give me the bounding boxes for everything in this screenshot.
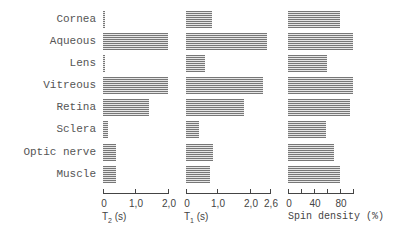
tick-label: 1,0 — [129, 198, 143, 209]
bar-t1 — [186, 99, 244, 116]
bar-sd — [288, 166, 340, 183]
bar-t1 — [186, 11, 212, 28]
axis-tick — [288, 189, 289, 194]
bar-t1 — [186, 77, 263, 94]
bar-t2 — [103, 121, 108, 138]
category-label: Cornea — [0, 13, 96, 25]
bar-t1 — [186, 121, 199, 138]
axis-tick — [353, 189, 354, 194]
axis-tick — [186, 189, 187, 194]
axis-tick — [168, 189, 169, 194]
x-axis-sd — [288, 193, 354, 194]
axis-tick — [103, 189, 104, 194]
bar-sd — [288, 55, 327, 72]
tick-label: 1,0 — [211, 198, 225, 209]
category-label: Aqueous — [0, 35, 96, 47]
tick-label: 80 — [335, 198, 346, 209]
axis-tick — [327, 189, 328, 194]
tick-label: 2,0 — [162, 198, 176, 209]
category-label: Optic nerve — [0, 146, 96, 158]
bar-sd — [288, 121, 326, 138]
bar-t1 — [186, 144, 213, 161]
bar-t2 — [103, 33, 168, 50]
axis-tick — [314, 189, 315, 194]
tick-label: 0 — [286, 198, 292, 209]
axis-tick — [301, 189, 302, 194]
bar-sd — [288, 77, 353, 94]
tick-label: 2,6 — [264, 198, 278, 209]
bar-t2 — [103, 99, 149, 116]
tick-label: 40 — [309, 198, 320, 209]
bar-sd — [288, 33, 353, 50]
bar-t1 — [186, 166, 210, 183]
tick-label: 2,0 — [244, 198, 258, 209]
tick-label: 0 — [184, 198, 190, 209]
axis-tick — [340, 189, 341, 194]
x-axis-t1 — [186, 193, 271, 194]
category-label: Muscle — [0, 168, 96, 180]
category-label: Vitreous — [0, 79, 96, 91]
bar-t1 — [186, 33, 267, 50]
axis-title-spin-density: Spin density (%) — [288, 211, 384, 222]
bar-t2 — [103, 144, 116, 161]
axis-tick — [217, 189, 218, 194]
bar-t2 — [103, 11, 105, 28]
tick-label: 0 — [101, 198, 107, 209]
x-axis-t2 — [103, 193, 169, 194]
axis-tick — [250, 189, 251, 194]
category-label: Sclera — [0, 123, 96, 135]
bar-t2 — [103, 55, 105, 72]
bar-t1 — [186, 55, 205, 72]
bar-sd — [288, 11, 340, 28]
category-label: Lens — [0, 57, 96, 69]
axis-tick — [270, 189, 271, 194]
axis-title-t1: T1 (s) — [184, 211, 208, 224]
bar-sd — [288, 144, 334, 161]
axis-tick — [135, 189, 136, 194]
category-label: Retina — [0, 101, 96, 113]
bar-t2 — [103, 166, 116, 183]
axis-title-t2: T2 (s) — [102, 211, 126, 224]
bar-t2 — [103, 77, 168, 94]
bar-sd — [288, 99, 350, 116]
